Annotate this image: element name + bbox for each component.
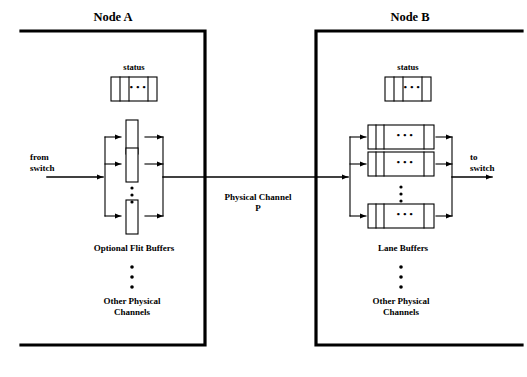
- node-b-lane-buffer-2-ellipsis: • • •: [397, 157, 413, 167]
- node-a-status-label: status: [123, 63, 144, 73]
- node-a-other-channels-line1: Other Physical: [103, 296, 160, 306]
- node-a-title: Node A: [93, 10, 132, 24]
- node-b-status-label: status: [397, 63, 418, 73]
- node-a-buffers-label: Optional Flit Buffers: [94, 243, 175, 253]
- physical-channel-label-line1: Physical Channel: [225, 192, 292, 202]
- node-b-title: Node B: [390, 10, 429, 24]
- node-a-buffer-bus: [47, 137, 163, 216]
- node-a-other-channels-line2: Channels: [114, 307, 150, 317]
- to-switch-label-line1: to: [470, 152, 478, 162]
- other-channels-ellipsis: [130, 265, 403, 289]
- node-a-flit-buffer-3: [126, 200, 138, 234]
- diagram-vector-layer: [0, 0, 527, 377]
- node-a-flit-buffers: [126, 120, 138, 234]
- node-b-status-ellipsis: • • •: [404, 82, 420, 92]
- physical-channel-label-line2: P: [255, 203, 261, 213]
- from-switch-label-line1: from: [30, 152, 49, 162]
- node-b-buffers-label: Lane Buffers: [378, 243, 428, 253]
- to-switch-label-line2: switch: [470, 163, 495, 173]
- node-a-status-ellipsis: • • •: [130, 82, 146, 92]
- node-b-lane-buffer-3-ellipsis: • • •: [397, 209, 413, 219]
- node-b-other-channels-line2: Channels: [383, 307, 419, 317]
- from-switch-label-line2: switch: [30, 163, 55, 173]
- diagram-canvas: Node A Node B status status • • • • • • …: [0, 0, 527, 377]
- node-b-lane-buffer-1-ellipsis: • • •: [397, 130, 413, 140]
- node-a-flit-buffer-2: [126, 148, 138, 182]
- node-b-other-channels-line1: Other Physical: [372, 296, 429, 306]
